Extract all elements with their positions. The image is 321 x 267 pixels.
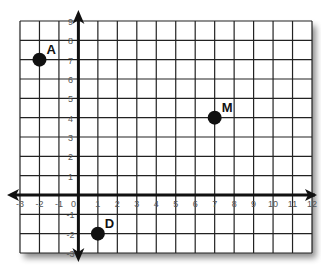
x-tick-label: 12 (307, 199, 317, 209)
y-tick-label: 7 (68, 56, 73, 66)
point-d-marker (91, 227, 105, 241)
x-tick-label: -1 (55, 199, 63, 209)
x-tick-label: 3 (134, 199, 139, 209)
x-tick-label: 0 (71, 199, 76, 209)
point-m-marker (208, 111, 222, 125)
y-tick-label: 3 (68, 133, 73, 143)
x-tick-label: 4 (154, 199, 159, 209)
x-tick-label: 11 (288, 199, 297, 209)
y-tick-label: -3 (66, 249, 74, 259)
x-tick-label: 5 (173, 199, 178, 209)
x-tick-label: 9 (251, 199, 256, 209)
y-tick-label: 8 (68, 36, 73, 46)
y-tick-label: 6 (68, 75, 73, 85)
y-tick-label: 1 (68, 172, 73, 182)
y-tick-label: 4 (68, 114, 73, 124)
point-m-label: M (222, 100, 233, 115)
x-tick-label: 6 (193, 199, 198, 209)
x-tick-label: -3 (16, 199, 24, 209)
y-tick-label: 9 (68, 17, 73, 27)
y-tick-label: 2 (68, 152, 73, 162)
x-tick-label: 1 (95, 199, 100, 209)
x-tick-label: 7 (212, 199, 217, 209)
point-a-label: A (46, 42, 56, 57)
x-tick-label: 2 (115, 199, 120, 209)
y-tick-label: -2 (66, 230, 74, 240)
y-tick-label: 5 (68, 94, 73, 104)
x-tick-label: 10 (268, 199, 278, 209)
point-a-marker (32, 53, 46, 67)
x-tick-label: -2 (35, 199, 43, 209)
y-tick-label: -1 (66, 210, 74, 220)
coordinate-plane: -3-2-10123456789101112-3-2-1123456789 AM… (0, 0, 321, 267)
point-d-label: D (105, 216, 114, 231)
x-tick-label: 8 (232, 199, 237, 209)
